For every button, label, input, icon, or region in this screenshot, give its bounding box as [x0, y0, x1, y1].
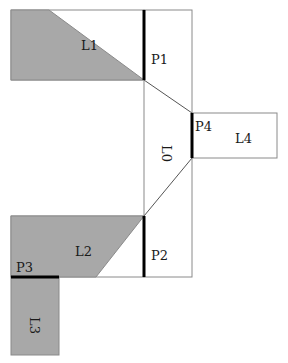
label-l0: L0 [159, 145, 174, 162]
label-l2: L2 [75, 244, 92, 259]
label-l4: L4 [235, 131, 252, 146]
label-p4: P4 [195, 119, 212, 134]
label-p2: P2 [151, 248, 168, 263]
region-l3 [11, 277, 59, 355]
layout-diagram: L1 P1 P4 L4 L0 L2 P2 P3 L3 [0, 0, 288, 363]
label-p1: P1 [151, 52, 168, 67]
main-column-outline [144, 10, 192, 277]
label-l3: L3 [27, 317, 42, 334]
label-p3: P3 [16, 260, 33, 275]
label-l1: L1 [81, 38, 98, 53]
